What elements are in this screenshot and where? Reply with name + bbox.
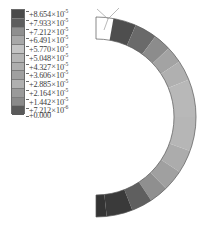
legend-swatch	[12, 10, 24, 19]
legend-entry: +0.000	[26, 112, 98, 121]
legend-exponent: -5	[64, 8, 68, 14]
legend-exponent: -5	[64, 78, 68, 84]
legend-swatch	[12, 54, 24, 63]
contour-band-group	[92, 0, 206, 235]
triad-axes	[97, 8, 119, 30]
legend-label-column: +8.654×10-5+7.933×10-5+7.212×10-5+6.491×…	[26, 7, 98, 116]
orientation-triad	[95, 7, 121, 31]
legend-swatch	[12, 19, 24, 28]
legend-swatch	[12, 89, 24, 98]
legend-exponent: -5	[64, 26, 68, 32]
legend-exponent: -6	[64, 104, 68, 110]
legend-entry: +6.491×10-5	[26, 33, 98, 42]
legend-mantissa: +0.000	[29, 111, 51, 120]
legend-value-text: +0.000	[29, 112, 51, 121]
legend-exponent: -5	[64, 69, 68, 75]
contour-legend: +8.654×10-5+7.933×10-5+7.212×10-5+6.491×…	[11, 9, 97, 115]
legend-entry: +2.885×10-5	[26, 77, 98, 86]
legend-entry: +4.327×10-5	[26, 60, 98, 69]
legend-swatch	[12, 36, 24, 45]
legend-swatch	[12, 106, 24, 115]
legend-swatch	[12, 80, 24, 89]
legend-exponent: -5	[64, 52, 68, 58]
contour-model	[92, 0, 206, 235]
legend-exponent: -5	[64, 61, 68, 67]
legend-swatch	[12, 63, 24, 72]
legend-swatch	[12, 71, 24, 80]
legend-exponent: -5	[64, 96, 68, 102]
legend-entry: +5.770×10-5	[26, 42, 98, 51]
legend-exponent: -5	[64, 43, 68, 49]
triad-axis-2	[108, 8, 119, 19]
contour-wedges	[92, 0, 206, 235]
legend-entry: +1.442×10-5	[26, 95, 98, 104]
legend-swatch	[12, 98, 24, 107]
legend-exponent: -5	[64, 87, 68, 93]
legend-exponent: -5	[64, 17, 68, 23]
triad-axis-3	[104, 19, 108, 30]
triad-axis-1	[97, 9, 108, 19]
legend-entry: +5.048×10-5	[26, 51, 98, 60]
legend-entry: +8.654×10-5	[26, 7, 98, 16]
legend-entry: +3.606×10-5	[26, 68, 98, 77]
figure-canvas: +8.654×10-5+7.933×10-5+7.212×10-5+6.491×…	[0, 0, 206, 235]
legend-exponent: -5	[64, 34, 68, 40]
legend-swatch	[12, 28, 24, 37]
legend-entry: +2.164×10-5	[26, 86, 98, 95]
legend-swatch	[12, 45, 24, 54]
legend-entry: +7.933×10-5	[26, 16, 98, 25]
legend-color-bar	[11, 9, 25, 114]
legend-entry: +7.212×10-5	[26, 25, 98, 34]
